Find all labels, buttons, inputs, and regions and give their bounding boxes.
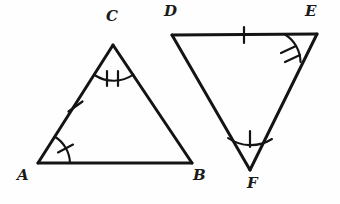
vertex-label-e: E (305, 4, 316, 19)
side-ac (38, 45, 113, 163)
side-ef (250, 34, 317, 170)
angle-c-mark (95, 71, 134, 86)
angle-a-mark (55, 137, 74, 164)
triangle-abc (38, 45, 192, 163)
side-bc (113, 45, 192, 163)
angle-e-mark (281, 35, 301, 63)
vertex-label-c: C (106, 9, 118, 24)
vertex-label-f: F (247, 176, 258, 191)
triangle-def (172, 27, 317, 170)
geometry-figure: A B C D E F (0, 0, 340, 204)
vertex-label-d: D (164, 4, 177, 19)
vertex-label-a: A (17, 168, 29, 183)
geometry-canvas (0, 0, 340, 204)
vertex-label-b: B (193, 168, 206, 183)
